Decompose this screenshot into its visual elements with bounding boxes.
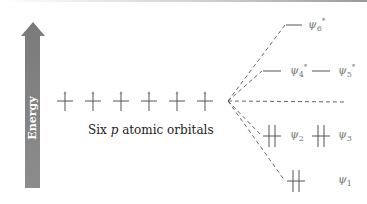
label-psi6: ψ6* [308,17,325,33]
level-psi2 [263,125,281,147]
caption-suffix: atomic orbitals [118,123,213,137]
atomic-orbitals [57,91,213,111]
label-psi4: ψ4* [290,63,307,79]
level-psi3 [312,125,330,147]
atomic-orbital [85,91,101,111]
atomic-orbital [57,91,73,111]
correlation-lines [228,25,345,181]
atomic-orbital [197,91,213,111]
caption-prefix: Six [88,123,111,137]
atomic-orbital [113,91,129,111]
label-psi5: ψ5* [338,63,355,79]
atomic-orbital [141,91,157,111]
atomic-orbitals-caption: Six p atomic orbitals [88,123,214,137]
label-psi2: ψ2 [290,128,304,143]
level-psi1 [287,170,305,192]
label-psi1: ψ1 [338,173,352,188]
energy-label: Energy [26,96,39,139]
mo-levels [263,25,330,192]
atomic-orbital [169,91,185,111]
label-psi3: ψ3 [338,128,352,143]
